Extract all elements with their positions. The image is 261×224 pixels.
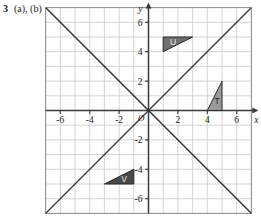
shape-label: T (214, 96, 219, 106)
y-tick-label: 4 (138, 47, 143, 57)
y-axis-arrow-icon (146, 3, 152, 9)
y-tick-label: -4 (135, 165, 143, 175)
y-tick-label: -6 (135, 194, 143, 204)
x-axis-arrow-icon (252, 108, 258, 114)
y-tick-label: -2 (135, 135, 143, 145)
axis-names-group: xyO (137, 4, 259, 125)
x-tick-label: -4 (86, 115, 94, 125)
graph-svg: -6-4-2246642-2-4-6 UTV xyO (0, 0, 261, 224)
y-tick-label: 6 (138, 18, 143, 28)
x-tick-label: -6 (56, 115, 64, 125)
x-axis-label: x (253, 115, 259, 125)
origin-label: O (138, 113, 145, 123)
y-tick-label: 2 (138, 77, 143, 87)
y-axis-label: y (137, 4, 143, 14)
x-tick-label: 4 (205, 115, 210, 125)
shape-label: V (121, 174, 127, 184)
x-tick-label: 2 (176, 115, 181, 125)
x-tick-label: 6 (234, 115, 239, 125)
x-tick-label: -2 (115, 115, 123, 125)
worksheet-figure-page: 3 (a), (b) -6-4-2246642-2-4-6 UTV xyO (0, 0, 261, 224)
shape-label: U (170, 37, 176, 47)
coordinate-grid-figure: -6-4-2246642-2-4-6 UTV xyO (0, 0, 261, 224)
